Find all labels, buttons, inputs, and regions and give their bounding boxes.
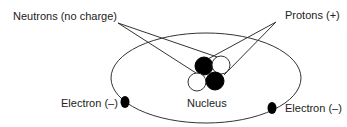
nucleus-proton-1 — [195, 57, 213, 75]
nucleus-neutron-1 — [212, 56, 230, 74]
nucleus-label: Nucleus — [187, 97, 227, 109]
neutron-leader-line-1 — [118, 23, 220, 58]
electron-right-label: Electron (–) — [285, 102, 342, 114]
nucleus-proton-2 — [206, 72, 224, 90]
neutron-leader-line-2 — [118, 23, 196, 73]
electron-right — [268, 102, 277, 114]
neutrons-label: Neutrons (no charge) — [13, 10, 117, 22]
electron-left-label: Electron (–) — [61, 97, 118, 109]
nucleus-neutron-2 — [188, 73, 206, 91]
proton-leader-line-2 — [224, 22, 276, 75]
electron-left — [121, 96, 130, 108]
proton-leader-line-1 — [208, 22, 276, 59]
protons-label: Protons (+) — [285, 9, 340, 21]
